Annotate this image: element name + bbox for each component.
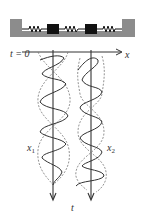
coupled-oscillator-diagram: t = 0 x t x1 x2 bbox=[0, 0, 142, 221]
x-axis bbox=[22, 49, 122, 55]
mass-1 bbox=[47, 24, 59, 34]
t-axis-2 bbox=[88, 50, 94, 200]
t-axis-label: t bbox=[71, 202, 74, 213]
x1-label: x1 bbox=[26, 142, 35, 155]
t-zero-label: t = 0 bbox=[10, 48, 30, 59]
container-walls bbox=[10, 19, 135, 37]
x1-label-sub: 1 bbox=[31, 147, 35, 155]
x-axis-label: x bbox=[124, 49, 130, 60]
x2-label-sub: 2 bbox=[111, 147, 115, 155]
mass-2 bbox=[85, 24, 97, 34]
x2-label: x2 bbox=[106, 142, 115, 155]
x1-trace bbox=[40, 56, 68, 185]
